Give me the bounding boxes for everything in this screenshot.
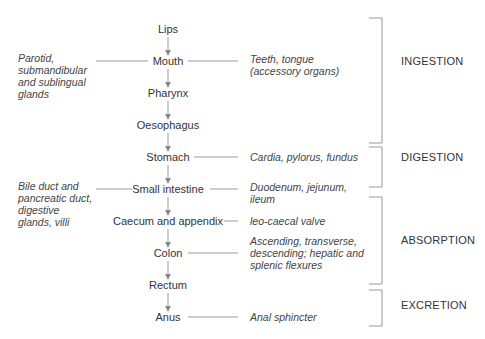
note-anal-sphincter: Anal sphincter xyxy=(250,311,360,323)
note-salivary-glands: Parotid, submandibular and sublingual gl… xyxy=(18,52,96,100)
organ-stomach: Stomach xyxy=(146,151,189,163)
phase-absorption: ABSORPTION xyxy=(401,234,475,246)
phase-excretion: EXCRETION xyxy=(401,299,467,311)
note-small-intestine-parts: Duodenum, jejunum, ileum xyxy=(250,181,350,205)
phase-ingestion: INGESTION xyxy=(401,55,463,67)
phase-digestion: DIGESTION xyxy=(401,151,463,163)
diagram-lines xyxy=(0,0,485,339)
organ-small-intestine: Small intestine xyxy=(132,183,204,195)
organ-lips: Lips xyxy=(158,23,178,35)
note-ileo-caecal-valve: leo-caecal valve xyxy=(250,215,360,227)
note-bile-duct: Bile duct and pancreatic duct, digestive… xyxy=(18,180,96,228)
note-colon-parts: Ascending, transverse, descending; hepat… xyxy=(250,235,368,271)
organ-rectum: Rectum xyxy=(149,279,187,291)
note-stomach-parts: Cardia, pylorus, fundus xyxy=(250,151,370,163)
organ-caecum-appendix: Caecum and appendix xyxy=(113,215,223,227)
note-teeth-tongue: Teeth, tongue (accessory organs) xyxy=(250,53,350,77)
organ-colon: Colon xyxy=(154,247,183,259)
organ-pharynx: Pharynx xyxy=(148,87,188,99)
organ-mouth: Mouth xyxy=(153,55,184,67)
organ-oesophagus: Oesophagus xyxy=(137,119,199,131)
organ-anus: Anus xyxy=(155,311,180,323)
